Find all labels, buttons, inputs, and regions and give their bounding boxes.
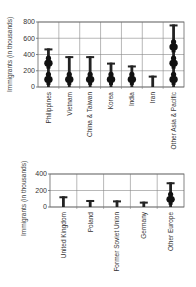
bar-cap <box>149 76 157 78</box>
x-category-label: Iran <box>149 92 156 104</box>
pictograph-bar <box>166 182 174 207</box>
bar-cap <box>113 200 121 202</box>
bar-cap <box>170 24 178 26</box>
immigrants-pictograph-figure: 0200400600800Immigrants (in thousands)Ph… <box>0 0 196 287</box>
person-icon <box>44 56 52 69</box>
x-category-label: United Kingdom <box>60 212 68 258</box>
y-tick-label: 400 <box>35 170 47 177</box>
y-tick-label: 200 <box>35 187 47 194</box>
x-category-label: Other Europe <box>167 212 175 251</box>
bar-cap <box>107 63 115 65</box>
x-category-label: Germany <box>140 211 148 238</box>
pictograph-bar <box>86 56 94 87</box>
bar-cap <box>167 182 175 184</box>
person-icon <box>169 72 177 85</box>
chart-asia: 0200400600800Immigrants (in thousands)Ph… <box>6 17 184 150</box>
y-tick-label: 400 <box>23 51 35 58</box>
x-category-label: Philippines <box>45 91 53 123</box>
bar-cap <box>59 196 67 198</box>
x-category-label: Vietnam <box>66 92 73 116</box>
y-tick-label: 600 <box>23 35 35 42</box>
x-category-label: Former Soviet Union <box>113 212 120 272</box>
bar-cap <box>140 202 148 204</box>
person-icon <box>166 192 174 205</box>
y-tick-label: 800 <box>23 18 35 25</box>
pictograph-bar <box>128 65 136 87</box>
x-category-label: Other Asia & Pacific <box>170 91 177 149</box>
person-icon <box>107 72 115 85</box>
person-icon <box>169 39 177 52</box>
pictograph-bar <box>169 24 177 87</box>
pictograph-bar <box>65 56 73 87</box>
bar-cap <box>86 200 94 202</box>
x-category-label: Poland <box>87 212 94 233</box>
x-category-label: China & Taiwan <box>86 92 93 137</box>
bar-cap <box>44 48 52 50</box>
x-category-label: Korea <box>107 92 114 110</box>
person-icon <box>65 72 73 85</box>
y-axis-label: Immigrants (in thousands) <box>20 161 28 236</box>
pictograph-bar <box>140 202 148 207</box>
chart-europe: 0200400Immigrants (in thousands)United K… <box>20 161 184 272</box>
pictograph-bar <box>44 48 52 87</box>
person-icon <box>128 72 136 85</box>
y-axis-label: Immigrants (in thousands) <box>6 17 14 92</box>
pictograph-bar <box>107 63 115 87</box>
bar-cap <box>65 56 73 58</box>
bar-cap <box>86 56 94 58</box>
person-icon <box>86 72 94 85</box>
y-tick-label: 200 <box>23 67 35 74</box>
pictograph-bar <box>59 196 67 207</box>
y-tick-label: 0 <box>43 203 47 210</box>
pictograph-bar <box>149 76 157 87</box>
x-category-label: India <box>128 92 135 106</box>
pictograph-bar <box>86 200 94 207</box>
y-tick-label: 0 <box>31 83 35 90</box>
pictograph-bar <box>113 200 121 207</box>
bar-cap <box>128 65 136 67</box>
person-icon <box>44 72 52 85</box>
person-icon <box>169 56 177 69</box>
